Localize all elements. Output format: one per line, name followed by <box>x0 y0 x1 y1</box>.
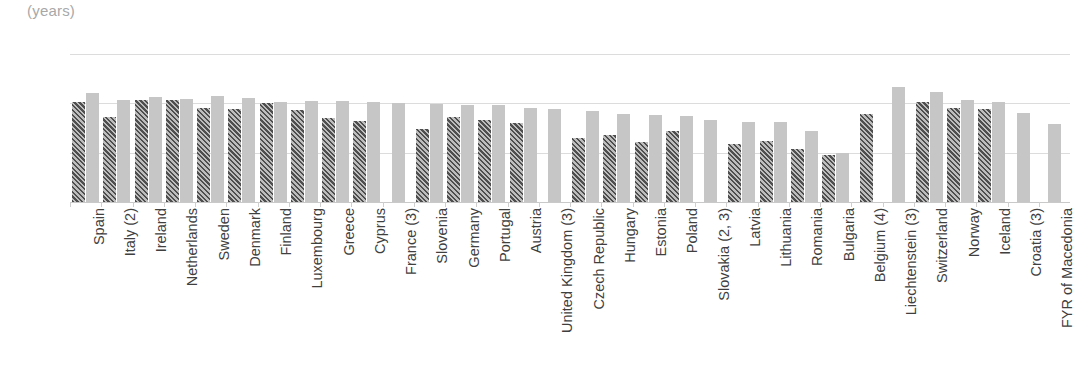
bar-series-a <box>728 144 741 202</box>
bar-series-a <box>353 121 366 202</box>
bar-group <box>447 54 474 202</box>
axis-tick <box>883 202 884 207</box>
x-tick-label: Finland <box>279 208 294 256</box>
bar-group <box>510 54 537 202</box>
bar-group <box>697 54 724 202</box>
axis-tick <box>1008 202 1009 207</box>
bar-series-a <box>447 117 460 202</box>
bar-series-b <box>1017 113 1030 202</box>
bar-group <box>166 54 193 202</box>
bar-series-b <box>680 116 693 202</box>
bar-group <box>416 54 443 202</box>
x-tick-label: Romania <box>810 208 825 266</box>
bar-group <box>572 54 599 202</box>
bar-group <box>72 54 99 202</box>
axis-tick <box>601 202 602 207</box>
x-tick-label: Estonia <box>654 208 669 256</box>
bar-series-b <box>367 102 380 202</box>
axis-tick <box>508 202 509 207</box>
bar-series-a <box>197 108 210 202</box>
bar-series-a <box>291 110 304 202</box>
x-tick-label: Italy (2) <box>123 208 138 256</box>
x-tick-label: Czech Republic <box>592 208 607 310</box>
bar-series-a <box>791 149 804 202</box>
bar-group <box>260 54 287 202</box>
bar-series-b <box>211 96 224 202</box>
bar-series-b <box>86 93 99 202</box>
bar-series-a <box>635 142 648 202</box>
bar-series-a <box>510 123 523 202</box>
bar-series-b <box>392 103 405 202</box>
axis-tick <box>414 202 415 207</box>
bar-group <box>635 54 662 202</box>
x-tick-label: Luxembourg <box>310 208 325 289</box>
x-tick-label: Germany <box>467 208 482 268</box>
x-tick-label: Liechtenstein (3) <box>904 208 919 315</box>
axis-tick <box>539 202 540 207</box>
bar-series-a <box>416 129 429 202</box>
bar-group <box>978 54 1005 202</box>
axis-tick <box>664 202 665 207</box>
x-tick-label: Latvia <box>748 208 763 247</box>
bar-group <box>603 54 630 202</box>
bar-series-a <box>822 155 835 202</box>
bar-series-b <box>305 101 318 202</box>
bar-group <box>853 54 880 202</box>
x-tick-label: Spain <box>92 208 107 245</box>
bar-series-a <box>478 120 491 202</box>
bar-group <box>666 54 693 202</box>
bar-group <box>916 54 943 202</box>
x-tick-label: Bulgaria <box>842 208 857 261</box>
bar-group <box>947 54 974 202</box>
bar-series-b <box>149 97 162 202</box>
bar-series-a <box>572 138 585 202</box>
axis-tick <box>758 202 759 207</box>
axis-tick <box>789 202 790 207</box>
axis-tick <box>570 202 571 207</box>
axis-tick <box>726 202 727 207</box>
x-tick-label: Greece <box>342 208 357 256</box>
x-tick-label: Hungary <box>623 208 638 263</box>
x-tick-label: Iceland <box>998 208 1013 255</box>
bar-series-b <box>704 120 717 202</box>
bar-series-a <box>72 102 85 202</box>
x-tick-label: Switzerland <box>935 208 950 283</box>
axis-tick <box>101 202 102 207</box>
bar-series-b <box>117 100 130 202</box>
bar-series-b <box>805 131 818 202</box>
bar-group <box>291 54 318 202</box>
bar-series-b <box>649 115 662 202</box>
bar-group <box>353 54 380 202</box>
axis-tick <box>320 202 321 207</box>
bar-series-b <box>742 122 755 202</box>
x-tick-label: Ireland <box>154 208 169 252</box>
x-tick-label: Belgium (4) <box>873 208 888 282</box>
bar-series-a <box>666 131 679 202</box>
bars-layer <box>70 54 1070 202</box>
x-tick-label: Norway <box>967 208 982 257</box>
axis-tick <box>445 202 446 207</box>
bar-group <box>541 54 568 202</box>
bar-series-a <box>978 109 991 202</box>
bar-series-b <box>892 87 905 202</box>
x-tick-label: Slovakia (2, 3) <box>717 208 732 301</box>
x-tick-label: Lithuania <box>779 208 794 267</box>
bar-series-b <box>586 111 599 202</box>
bar-group <box>197 54 224 202</box>
bar-group <box>760 54 787 202</box>
axis-tick <box>258 202 259 207</box>
bar-series-a <box>135 100 148 202</box>
bar-series-a <box>760 141 773 202</box>
plot-area <box>70 54 1070 202</box>
axis-tick <box>633 202 634 207</box>
x-tick-label: France (3) <box>404 208 419 275</box>
axis-tick <box>383 202 384 207</box>
axis-tick <box>1039 202 1040 207</box>
axis-tick <box>476 202 477 207</box>
x-tick-label: Denmark <box>248 208 263 267</box>
bar-series-b <box>461 105 474 202</box>
bar-group <box>135 54 162 202</box>
axis-tick <box>695 202 696 207</box>
axis-tick <box>289 202 290 207</box>
bar-group <box>885 54 912 202</box>
